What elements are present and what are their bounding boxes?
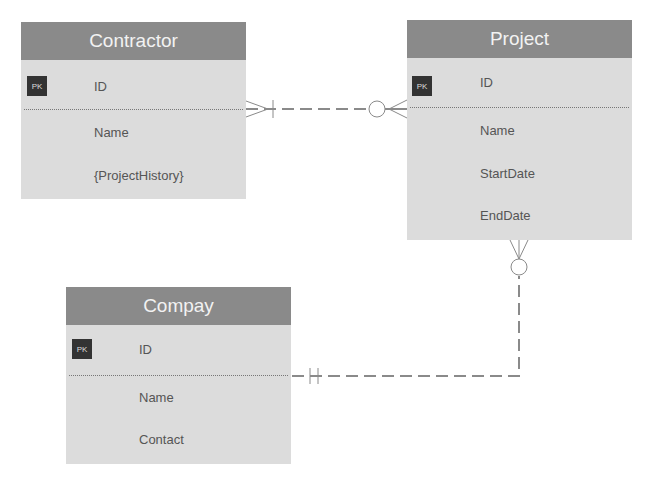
entity-title: Compay [66, 287, 291, 325]
field-name: Name [139, 387, 291, 407]
entity-title: Project [407, 20, 632, 58]
pk-separator [410, 107, 629, 108]
field-id: ID [94, 76, 246, 96]
pk-badge: PK [72, 339, 92, 359]
field-name: Name [480, 120, 632, 140]
compay-project-relationship [292, 240, 528, 384]
field-enddate: EndDate [480, 205, 632, 225]
pk-separator [24, 109, 243, 110]
field-contact: Contact [139, 429, 291, 449]
field-projecthistory: {ProjectHistory} [94, 165, 246, 185]
pk-badge: PK [27, 76, 47, 96]
pk-separator [69, 375, 288, 376]
field-id: ID [480, 72, 632, 92]
pk-badge: PK [412, 76, 432, 96]
entity-compay[interactable]: Compay PK ID Name Contact [66, 287, 291, 464]
entity-contractor[interactable]: Contractor PK ID Name {ProjectHistory} [21, 22, 246, 199]
entity-title: Contractor [21, 22, 246, 60]
field-id: ID [139, 339, 291, 359]
entity-project[interactable]: Project PK ID Name StartDate EndDate [407, 20, 632, 240]
field-name: Name [94, 122, 246, 142]
contractor-project-relationship [246, 100, 407, 118]
field-startdate: StartDate [480, 163, 632, 183]
